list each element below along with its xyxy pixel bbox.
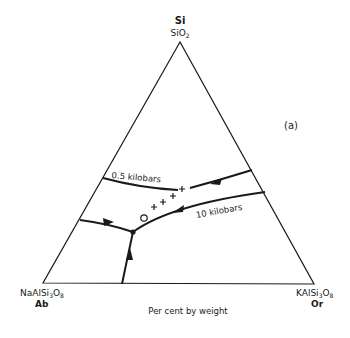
plus-marker: [179, 186, 185, 192]
plus-marker: [170, 193, 176, 199]
plus-marker: [160, 199, 166, 205]
arrow-icon: [172, 205, 184, 213]
arrow-icon: [126, 248, 133, 260]
vertex-left-abbrev: Ab: [35, 299, 48, 309]
ternary-triangle: [43, 42, 314, 284]
panel-label: (a): [284, 121, 298, 131]
axis-caption: Per cent by weight: [148, 306, 227, 316]
junction-point: [130, 229, 135, 234]
plus-marker: [151, 204, 157, 210]
circle-marker: [141, 215, 147, 221]
vertex-top-element: Si: [175, 16, 186, 26]
vertex-right-abbrev: Or: [311, 299, 323, 309]
vertex-top-formula: SiO2: [170, 28, 189, 41]
